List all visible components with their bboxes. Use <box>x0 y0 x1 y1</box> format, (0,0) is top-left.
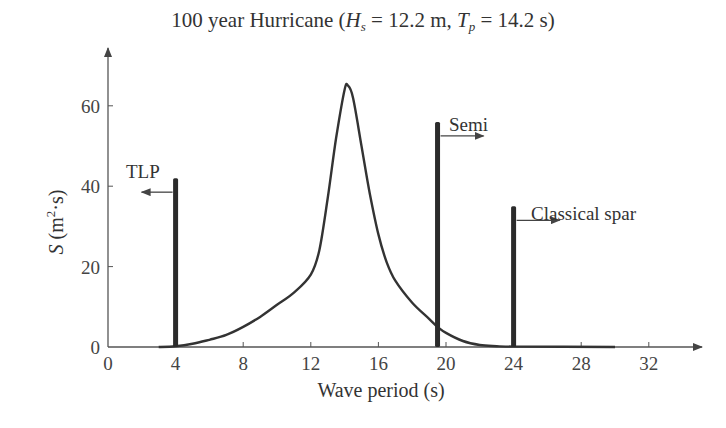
x-tick-label: 20 <box>437 353 456 374</box>
y-axis-label-unit-open: (m <box>45 217 68 245</box>
annotation-semi: Semi <box>449 114 488 135</box>
y-tick-label: 20 <box>81 257 100 278</box>
y-axis-label-symbol: S <box>45 244 67 254</box>
y-tick-label: 60 <box>81 96 100 117</box>
y-axis-label-unit-close: ·s) <box>45 190 68 211</box>
bar-classical-spar <box>511 206 516 347</box>
x-tick-label: 4 <box>171 353 181 374</box>
y-axis-label: S (m2·s) <box>43 190 68 255</box>
annotation-tlp: TLP <box>126 161 160 182</box>
x-tick-label: 24 <box>504 353 524 374</box>
x-tick-label: 16 <box>369 353 388 374</box>
natural-period-bars <box>142 122 560 347</box>
x-tick-label: 8 <box>238 353 248 374</box>
x-tick-label: 0 <box>103 353 113 374</box>
bar-tlp <box>173 178 178 347</box>
bar-semi <box>435 122 440 347</box>
plot-area: 048121620242832 0204060 TLP Semi Classic… <box>0 0 726 428</box>
x-tick-label: 28 <box>572 353 591 374</box>
y-tick-label: 0 <box>91 337 101 358</box>
x-tick-label: 12 <box>301 353 320 374</box>
x-axis-label: Wave period (s) <box>317 379 444 402</box>
annotation-classical-spar: Classical spar <box>531 203 637 224</box>
y-tick-label: 40 <box>81 176 100 197</box>
x-tick-label: 32 <box>639 353 658 374</box>
